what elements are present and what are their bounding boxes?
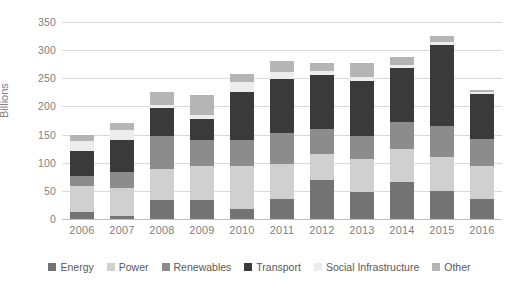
y-axis-tick-label: 50: [10, 185, 56, 197]
bar-segment[interactable]: [70, 141, 94, 151]
bar-segment[interactable]: [70, 176, 94, 186]
legend-label: Renewables: [174, 261, 232, 273]
bar-segment[interactable]: [110, 188, 134, 216]
bar-segment[interactable]: [430, 157, 454, 191]
bar-segment[interactable]: [470, 94, 494, 139]
bar-segment[interactable]: [70, 186, 94, 212]
bar-segment[interactable]: [110, 130, 134, 140]
bar-segment[interactable]: [430, 126, 454, 157]
bar-segment[interactable]: [310, 129, 334, 154]
bar-segment[interactable]: [70, 135, 94, 142]
bar-segment[interactable]: [390, 182, 414, 219]
legend-label: Energy: [60, 261, 93, 273]
bar-group: [62, 22, 502, 219]
bar-segment[interactable]: [150, 169, 174, 200]
bar-segment[interactable]: [270, 72, 294, 79]
stacked-bar[interactable]: [390, 57, 414, 219]
bar-segment[interactable]: [150, 92, 174, 104]
bar-segment[interactable]: [270, 199, 294, 219]
y-axis-tick-label: 250: [10, 72, 56, 84]
bar-segment[interactable]: [310, 180, 334, 219]
stacked-bar[interactable]: [430, 36, 454, 219]
bar-segment[interactable]: [470, 139, 494, 166]
bar-segment[interactable]: [270, 164, 294, 199]
bar-segment[interactable]: [230, 209, 254, 219]
y-axis-tick-label: 350: [10, 16, 56, 28]
bar-segment[interactable]: [390, 149, 414, 183]
legend-label: Other: [444, 261, 470, 273]
bar-segment[interactable]: [230, 140, 254, 165]
bar-slot: [222, 22, 262, 219]
stacked-bar[interactable]: [350, 63, 374, 219]
bar-segment[interactable]: [230, 82, 254, 92]
stacked-bar[interactable]: [470, 90, 494, 219]
y-axis-tick-label: 100: [10, 157, 56, 169]
stacked-bar[interactable]: [310, 63, 334, 219]
bar-segment[interactable]: [110, 140, 134, 172]
bar-segment[interactable]: [110, 123, 134, 130]
x-axis-tick-label: 2007: [102, 224, 142, 236]
legend-label: Transport: [256, 261, 301, 273]
bar-segment[interactable]: [230, 74, 254, 82]
legend-item[interactable]: Other: [432, 261, 470, 273]
bar-segment[interactable]: [190, 95, 214, 115]
bar-segment[interactable]: [190, 166, 214, 200]
bar-segment[interactable]: [70, 212, 94, 219]
x-axis-tick-label: 2009: [182, 224, 222, 236]
legend-item[interactable]: Transport: [244, 261, 301, 273]
x-axis-tick-label: 2013: [342, 224, 382, 236]
chart-legend: EnergyPowerRenewablesTransportSocial Inf…: [0, 261, 519, 273]
chart-container: Billions 050100150200250300350 200620072…: [0, 0, 519, 292]
x-axis-line: [62, 219, 502, 220]
bar-segment[interactable]: [350, 81, 374, 136]
bar-slot: [302, 22, 342, 219]
legend-swatch-icon: [314, 263, 322, 271]
bar-segment[interactable]: [470, 199, 494, 219]
legend-item[interactable]: Renewables: [162, 261, 232, 273]
bar-segment[interactable]: [150, 136, 174, 170]
bar-segment[interactable]: [390, 57, 414, 65]
legend-swatch-icon: [432, 263, 440, 271]
stacked-bar[interactable]: [230, 74, 254, 219]
bar-segment[interactable]: [270, 133, 294, 164]
x-axis-tick-label: 2011: [262, 224, 302, 236]
stacked-bar[interactable]: [190, 95, 214, 219]
bar-segment[interactable]: [150, 200, 174, 219]
x-axis-tick-label: 2015: [422, 224, 462, 236]
bar-segment[interactable]: [150, 108, 174, 136]
bar-slot: [142, 22, 182, 219]
bar-segment[interactable]: [350, 136, 374, 160]
bar-segment[interactable]: [390, 68, 414, 121]
bar-segment[interactable]: [310, 154, 334, 179]
stacked-bar[interactable]: [70, 135, 94, 219]
bar-segment[interactable]: [190, 200, 214, 219]
bar-slot: [422, 22, 462, 219]
bar-segment[interactable]: [430, 191, 454, 219]
bar-segment[interactable]: [230, 166, 254, 209]
bar-segment[interactable]: [350, 63, 374, 77]
bar-segment[interactable]: [350, 192, 374, 219]
bar-segment[interactable]: [190, 119, 214, 140]
bar-segment[interactable]: [110, 216, 134, 219]
bar-segment[interactable]: [230, 92, 254, 140]
legend-item[interactable]: Social Infrastructure: [314, 261, 419, 273]
bar-segment[interactable]: [430, 45, 454, 127]
stacked-bar[interactable]: [270, 61, 294, 219]
stacked-bar[interactable]: [110, 123, 134, 219]
bar-segment[interactable]: [190, 140, 214, 166]
legend-label: Social Infrastructure: [326, 261, 419, 273]
bar-segment[interactable]: [110, 172, 134, 188]
bar-segment[interactable]: [270, 79, 294, 134]
stacked-bar[interactable]: [150, 92, 174, 219]
bar-segment[interactable]: [310, 75, 334, 128]
legend-item[interactable]: Power: [107, 261, 149, 273]
bar-segment[interactable]: [70, 151, 94, 175]
bar-slot: [102, 22, 142, 219]
bar-segment[interactable]: [350, 159, 374, 192]
bar-segment[interactable]: [270, 61, 294, 72]
bar-segment[interactable]: [310, 63, 334, 71]
bar-segment[interactable]: [470, 166, 494, 199]
legend-item[interactable]: Energy: [48, 261, 93, 273]
legend-label: Power: [119, 261, 149, 273]
bar-segment[interactable]: [390, 122, 414, 149]
